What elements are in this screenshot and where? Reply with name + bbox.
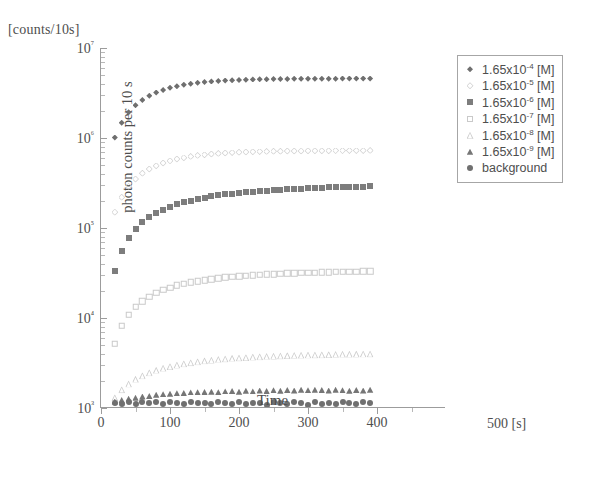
- data-point: [263, 353, 270, 360]
- data-point: [243, 272, 250, 279]
- data-point: [188, 198, 194, 204]
- data-point: [208, 78, 214, 84]
- data-point: [277, 271, 284, 278]
- data-point: [319, 76, 325, 82]
- data-point: [201, 357, 208, 364]
- legend-marker-open-diamond-icon: [463, 82, 477, 89]
- legend-item[interactable]: 1.65x10-5 [M]: [463, 78, 554, 95]
- legend-marker-filled-triangle-icon: [463, 149, 477, 155]
- legend-label: 1.65x10-7 [M]: [482, 111, 554, 126]
- data-point: [318, 351, 325, 358]
- data-point: [112, 135, 118, 141]
- legend-item[interactable]: 1.65x10-7 [M]: [463, 111, 554, 128]
- data-point: [222, 78, 228, 84]
- data-point: [126, 235, 132, 241]
- data-point: [291, 148, 298, 155]
- data-point: [257, 188, 263, 194]
- data-point: [167, 284, 174, 291]
- legend-item[interactable]: 1.65x10-6 [M]: [463, 94, 554, 111]
- y-axis-minor-tick: [101, 185, 105, 186]
- data-point: [201, 277, 208, 284]
- legend-marker-open-square-icon: [463, 116, 477, 123]
- legend-item[interactable]: 1.65x10-4 [M]: [463, 61, 554, 78]
- data-point: [173, 156, 180, 163]
- data-point: [118, 194, 125, 201]
- data-point: [312, 269, 319, 276]
- data-point: [291, 76, 297, 82]
- y-axis-tick-label: 10⁷: [77, 39, 94, 57]
- data-point: [284, 186, 290, 192]
- legend-marker-filled-diamond-icon: [463, 66, 477, 72]
- data-point: [319, 269, 326, 276]
- data-point: [250, 272, 257, 279]
- y-axis-minor-tick: [101, 255, 105, 256]
- legend-item[interactable]: background: [463, 160, 554, 177]
- legend-label: 1.65x10-8 [M]: [482, 128, 554, 143]
- data-point: [208, 193, 214, 199]
- data-point: [119, 120, 125, 126]
- data-point: [236, 273, 243, 280]
- data-point: [325, 269, 332, 276]
- data-point: [333, 76, 339, 82]
- data-point: [298, 76, 304, 82]
- data-point: [360, 351, 367, 358]
- data-point: [181, 199, 187, 205]
- data-point: [146, 93, 152, 99]
- data-point: [167, 85, 173, 91]
- data-point: [339, 269, 346, 276]
- data-point: [270, 271, 277, 278]
- data-point: [311, 147, 318, 154]
- y-axis-minor-tick: [101, 95, 105, 96]
- chart-legend: 1.65x10-4 [M]1.65x10-5 [M]1.65x10-6 [M]1…: [457, 55, 563, 183]
- legend-label: 1.65x10-5 [M]: [482, 78, 554, 93]
- data-point: [249, 148, 256, 155]
- data-point: [222, 274, 229, 281]
- data-point: [256, 353, 263, 360]
- data-point: [229, 77, 235, 83]
- data-point: [340, 184, 346, 190]
- figure-root: [counts/10s] photon counts per 10 s 10³1…: [0, 0, 589, 477]
- data-point: [153, 162, 160, 169]
- data-point: [305, 76, 311, 82]
- data-point: [139, 97, 145, 103]
- data-point: [236, 77, 242, 83]
- data-point: [118, 323, 125, 330]
- y-axis-minor-tick: [101, 158, 105, 159]
- legend-marker-open-triangle-icon: [463, 132, 477, 139]
- data-point: [326, 184, 332, 190]
- x-axis-title: Time: [100, 392, 445, 409]
- data-point: [353, 351, 360, 358]
- data-point: [346, 76, 352, 82]
- data-point: [319, 185, 325, 191]
- data-point: [332, 269, 339, 276]
- data-point: [153, 290, 160, 297]
- data-point: [153, 90, 159, 96]
- y-axis-minor-tick: [101, 52, 105, 53]
- y-axis-minor-tick: [101, 147, 105, 148]
- y-axis-minor-tick: [101, 75, 105, 76]
- data-point: [284, 270, 291, 277]
- data-point: [208, 357, 215, 364]
- legend-item[interactable]: 1.65x10-9 [M]: [463, 144, 554, 161]
- data-point: [146, 214, 152, 220]
- y-axis-minor-tick: [101, 165, 105, 166]
- data-point: [160, 160, 167, 167]
- y-axis-minor-tick: [101, 142, 105, 143]
- data-point: [187, 359, 194, 366]
- data-point: [180, 154, 187, 161]
- data-point: [367, 76, 373, 82]
- data-point: [181, 82, 187, 88]
- data-point: [167, 363, 174, 370]
- x-axis-unit-label: 500 [s]: [487, 416, 526, 432]
- data-point: [174, 83, 180, 89]
- data-point: [298, 186, 304, 192]
- legend-label: 1.65x10-6 [M]: [482, 95, 554, 110]
- legend-item[interactable]: 1.65x10-8 [M]: [463, 127, 554, 144]
- data-point: [325, 351, 332, 358]
- data-point: [208, 151, 215, 158]
- data-point: [256, 148, 263, 155]
- data-point: [222, 355, 229, 362]
- data-point: [367, 183, 373, 189]
- data-point: [249, 354, 256, 361]
- data-point: [305, 269, 312, 276]
